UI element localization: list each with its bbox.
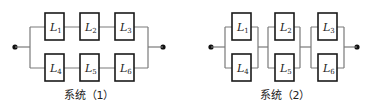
component-L6: L6 [318, 54, 337, 81]
parallel-pair-2: L2 L5 [268, 13, 300, 81]
system-2-diagram: L1 L4 L2 L5 L3 [208, 13, 359, 81]
system-2-caption: 系统（2） [260, 86, 311, 102]
component-L1: L1 [232, 13, 251, 40]
component-L3: L3 [318, 13, 337, 40]
system-1-diagram: L1 L2 L3 L4 L5 L6 [12, 13, 165, 81]
circuit-diagrams: L1 L2 L3 L4 L5 L6 [0, 0, 370, 107]
component-L4: L4 [232, 54, 251, 81]
component-L5: L5 [275, 54, 294, 81]
component-L4: L4 [45, 54, 64, 81]
parallel-pair-1: L1 L4 [225, 13, 258, 81]
component-L3: L3 [115, 13, 134, 40]
parallel-pair-3: L3 L6 [311, 13, 344, 81]
component-L6: L6 [115, 54, 134, 81]
component-L1: L1 [45, 13, 64, 40]
system-1-caption: 系统（1） [64, 86, 115, 102]
component-L5: L5 [80, 54, 99, 81]
component-L2: L2 [275, 13, 294, 40]
component-L2: L2 [80, 13, 99, 40]
